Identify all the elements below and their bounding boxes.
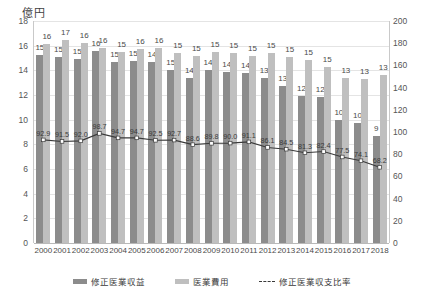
bar-expense[interactable]: 15 bbox=[268, 53, 275, 243]
ratio-value-label: 89.8 bbox=[205, 133, 219, 140]
y-axis-right-tick: 80 bbox=[393, 150, 421, 158]
ratio-value-label: 74.1 bbox=[354, 151, 368, 158]
bar-revenue[interactable]: 10 bbox=[335, 120, 342, 243]
bar-value-label: 16 bbox=[42, 33, 51, 41]
bar-value-label: 15 bbox=[304, 49, 313, 57]
legend-swatch-ratio-icon bbox=[259, 281, 275, 282]
bar-expense[interactable]: 15 bbox=[286, 57, 293, 243]
legend-item[interactable]: 医業費用 bbox=[175, 275, 229, 287]
bar-expense[interactable]: 15 bbox=[174, 53, 181, 243]
legend-item[interactable]: 修正医業収支比率 bbox=[259, 275, 351, 287]
bar-value-label: 16 bbox=[136, 38, 145, 46]
x-axis-tick-label: 2009 bbox=[202, 245, 221, 259]
ratio-value-label: 92.0 bbox=[74, 131, 88, 138]
bar-expense[interactable]: 15 bbox=[305, 60, 312, 243]
bar-revenue[interactable]: 15 bbox=[167, 70, 174, 243]
bar-revenue[interactable]: 16 bbox=[92, 51, 99, 243]
bar-group: 1013 bbox=[352, 21, 371, 243]
bar-revenue[interactable]: 14 bbox=[223, 72, 230, 243]
bar-expense[interactable]: 17 bbox=[62, 40, 69, 244]
bar-revenue[interactable]: 9 bbox=[373, 136, 380, 243]
bar-revenue[interactable]: 12 bbox=[317, 97, 324, 243]
bar-revenue[interactable]: 15 bbox=[36, 55, 43, 243]
ratio-value-label: 77.5 bbox=[335, 147, 349, 154]
legend-label: 医業費用 bbox=[193, 275, 229, 287]
bar-expense[interactable]: 16 bbox=[81, 43, 88, 243]
x-axis-tick-label: 2004 bbox=[109, 245, 128, 259]
y-axis-right-tick: 40 bbox=[393, 195, 421, 203]
y-axis-left-tick: 14 bbox=[2, 66, 28, 74]
bar-expense[interactable]: 15 bbox=[118, 52, 125, 243]
legend-label: 修正医業収支比率 bbox=[279, 275, 351, 287]
x-axis-tick-label: 2016 bbox=[333, 245, 352, 259]
bar-value-label: 15 bbox=[285, 46, 294, 54]
bar-revenue[interactable]: 14 bbox=[148, 62, 155, 243]
x-axis-tick-label: 2002 bbox=[71, 245, 90, 259]
bar-expense[interactable]: 15 bbox=[324, 67, 331, 243]
x-axis-tick-label: 2001 bbox=[53, 245, 72, 259]
bar-value-label: 15 bbox=[173, 42, 182, 50]
bar-revenue[interactable]: 13 bbox=[261, 78, 268, 243]
y-axis-right-tick: 200 bbox=[393, 17, 421, 25]
x-axis-tick-label: 2018 bbox=[370, 245, 389, 259]
bar-expense[interactable]: 15 bbox=[249, 56, 256, 243]
bar-revenue[interactable]: 13 bbox=[279, 86, 286, 243]
y-axis-left-tick: 16 bbox=[2, 42, 28, 50]
bar-value-label: 16 bbox=[80, 32, 89, 40]
x-axis-tick-label: 2010 bbox=[221, 245, 240, 259]
bar-expense[interactable]: 16 bbox=[43, 44, 50, 243]
bar-revenue[interactable]: 14 bbox=[186, 78, 193, 243]
bar-expense[interactable]: 16 bbox=[99, 48, 106, 243]
x-axis-tick-label: 2017 bbox=[352, 245, 371, 259]
ratio-value-label: 94.7 bbox=[130, 128, 144, 135]
bar-value-label: 16 bbox=[98, 37, 107, 45]
bar-group: 1215 bbox=[296, 21, 315, 243]
gridline bbox=[34, 243, 389, 244]
bar-revenue[interactable]: 15 bbox=[55, 57, 62, 243]
bar-expense[interactable]: 16 bbox=[155, 48, 162, 243]
bar-revenue[interactable]: 14 bbox=[242, 73, 249, 243]
bar-expense[interactable]: 15 bbox=[212, 52, 219, 243]
bar-value-label: 15 bbox=[211, 41, 220, 49]
ratio-value-label: 88.6 bbox=[186, 135, 200, 142]
bar-value-label: 9 bbox=[374, 125, 378, 133]
y-axis-left-tick: 12 bbox=[2, 91, 28, 99]
bar-revenue[interactable]: 15 bbox=[74, 59, 81, 243]
legend-item[interactable]: 修正医業収益 bbox=[73, 275, 145, 287]
bar-group: 1616 bbox=[90, 21, 109, 243]
chart-container: 億円 181614121086420 200180160140120100806… bbox=[0, 0, 424, 293]
bar-expense[interactable]: 13 bbox=[361, 79, 368, 243]
bar-revenue[interactable]: 15 bbox=[111, 62, 118, 243]
bar-value-label: 13 bbox=[360, 68, 369, 76]
x-axis-tick-label: 2000 bbox=[34, 245, 53, 259]
bar-revenue[interactable]: 14 bbox=[205, 70, 212, 243]
y-axis-left-tick: 4 bbox=[2, 190, 28, 198]
bar-revenue[interactable]: 12 bbox=[298, 96, 305, 243]
bar-revenue[interactable]: 10 bbox=[354, 123, 361, 243]
x-axis-labels: 2000200120022003200420052006200720082009… bbox=[34, 245, 389, 259]
y-axis-right-tick: 60 bbox=[393, 172, 421, 180]
bar-expense[interactable]: 13 bbox=[342, 78, 349, 243]
bar-group: 1315 bbox=[277, 21, 296, 243]
bar-value-label: 15 bbox=[248, 45, 257, 53]
bar-expense[interactable]: 15 bbox=[193, 56, 200, 243]
bar-value-label: 16 bbox=[155, 37, 164, 45]
ratio-value-label: 92.9 bbox=[36, 130, 50, 137]
y-axis-left-tick: 2 bbox=[2, 214, 28, 222]
bar-group: 913 bbox=[370, 21, 389, 243]
x-axis-tick-label: 2003 bbox=[90, 245, 109, 259]
ratio-value-label: 91.1 bbox=[242, 132, 256, 139]
ratio-value-label: 84.5 bbox=[279, 139, 293, 146]
x-axis-tick-label: 2013 bbox=[277, 245, 296, 259]
legend-swatch-revenue-icon bbox=[73, 279, 87, 284]
ratio-value-label: 94.7 bbox=[111, 128, 125, 135]
x-axis-tick-label: 2011 bbox=[240, 245, 259, 259]
x-axis-tick-label: 2007 bbox=[165, 245, 184, 259]
bar-expense[interactable]: 15 bbox=[230, 53, 237, 243]
bar-expense[interactable]: 16 bbox=[137, 49, 144, 243]
ratio-value-label: 90.0 bbox=[223, 133, 237, 140]
ratio-value-label: 86.1 bbox=[261, 137, 275, 144]
bar-revenue[interactable]: 15 bbox=[130, 61, 137, 243]
bar-value-label: 15 bbox=[117, 41, 126, 49]
ratio-value-label: 98.7 bbox=[92, 123, 106, 130]
